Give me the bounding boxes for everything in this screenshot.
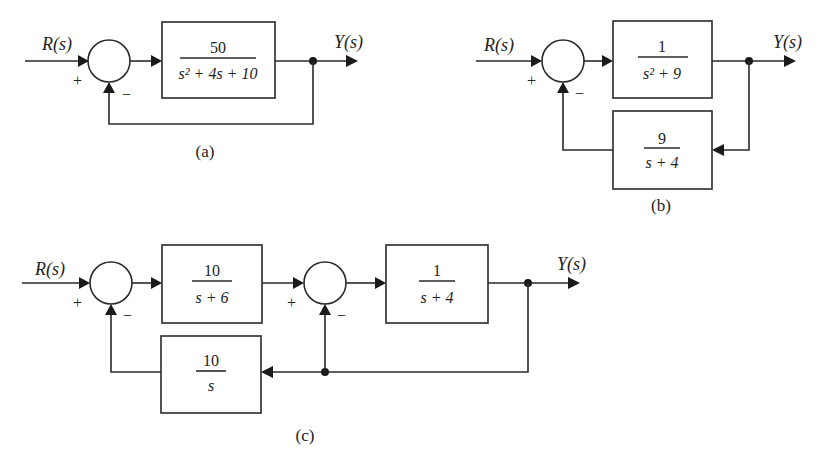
forward-block [613,21,712,98]
diagram-c: R(s) + − 10 s + 6 + − 1 s + 4 Y(s) [22,245,586,445]
feedback-denominator: s + 4 [645,154,678,171]
arrow-icon [531,55,542,67]
sum-minus-sign: − [122,86,131,103]
arrow-icon [319,304,331,315]
forward-denominator: s² + 9 [643,65,681,82]
feedback-numerator: 9 [658,130,666,147]
summing-junction-2 [304,262,346,304]
forward-denominator: s² + 4s + 10 [179,65,258,82]
forward1-numerator: 10 [204,262,220,279]
input-label: R(s) [41,34,72,55]
arrow-icon [105,304,117,315]
feedback-block [161,336,261,413]
forward2-numerator: 1 [433,262,441,279]
forward-numerator: 50 [210,39,226,56]
outer-feedback-path [111,312,161,372]
forward2-denominator: s + 4 [420,289,453,306]
output-label: Y(s) [557,254,586,275]
feedback-block [613,111,712,189]
output-label: Y(s) [773,32,802,53]
sum1-minus-sign: − [123,307,132,324]
sum2-plus-sign: + [287,294,296,311]
diagram-b: R(s) + − 1 s² + 9 Y(s) 9 s + 4 (b) [476,21,802,215]
sum-minus-sign: − [575,85,584,102]
arrow-icon [151,55,162,67]
arrow-icon [151,277,162,289]
feedback-numerator: 10 [203,352,219,369]
arrow-icon [568,277,580,289]
arrow-icon [346,55,358,67]
arrow-icon [79,277,90,289]
feedback-denominator: s [208,377,214,394]
feedback-path-in [722,61,749,150]
feedback-path-out [563,90,613,150]
arrow-icon [103,82,115,93]
forward-block-1 [162,245,262,323]
summing-junction [542,40,584,82]
sum-plus-sign: + [527,72,536,89]
summing-junction-1 [90,262,132,304]
arrow-icon [602,55,613,67]
arrow-icon [375,277,386,289]
forward1-denominator: s + 6 [195,289,228,306]
summing-junction [88,40,130,82]
forward-numerator: 1 [658,38,666,55]
caption: (a) [196,142,215,161]
arrow-icon [712,144,724,156]
caption: (c) [296,426,315,445]
arrow-icon [261,366,273,378]
sum-plus-sign: + [73,72,82,89]
sum1-plus-sign: + [73,294,82,311]
forward-block [162,22,275,98]
input-label: R(s) [483,35,514,56]
arrow-icon [293,277,304,289]
diagram-a: R(s) + − 50 s² + 4s + 10 Y(s) (a) [25,22,363,161]
arrow-icon [784,55,796,67]
caption: (b) [651,196,671,215]
arrow-icon [557,82,569,93]
input-label: R(s) [34,259,65,280]
sum2-minus-sign: − [337,307,346,324]
output-label: Y(s) [334,32,363,53]
forward-block-2 [386,245,488,323]
